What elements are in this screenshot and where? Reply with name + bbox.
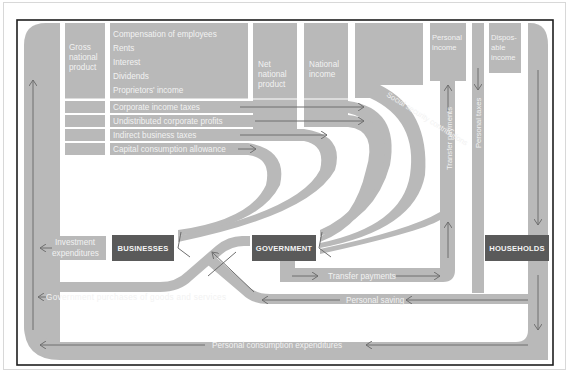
row-undistributed-profits: Undistributed corporate profits xyxy=(113,117,223,126)
personal-taxes-label: Personal taxes xyxy=(474,98,483,148)
personal-income-label: Personal xyxy=(432,33,462,42)
svg-text:income: income xyxy=(491,53,515,62)
row-indirect-business-taxes: Indirect business taxes xyxy=(113,131,196,140)
national-income-label: National xyxy=(309,60,339,69)
svg-text:income: income xyxy=(432,43,456,52)
svg-text:GOVERNMENT: GOVERNMENT xyxy=(256,244,313,253)
svg-text:expenditures: expenditures xyxy=(52,249,99,258)
transfer-payments-vertical-label: Transfer payments xyxy=(445,107,454,170)
svg-text:national: national xyxy=(258,70,287,79)
svg-text:able: able xyxy=(491,43,505,52)
svg-text:Personal consumption expenditu: Personal consumption expenditures xyxy=(212,341,342,350)
row-corporate-income-taxes: Corporate income taxes xyxy=(113,103,200,112)
svg-text:Investment: Investment xyxy=(55,238,96,247)
gnp-label: Gross xyxy=(69,43,91,52)
circular-flow-diagram: Gross national product Compensation of e… xyxy=(0,0,572,373)
svg-text:Personal saving: Personal saving xyxy=(346,296,405,305)
svg-text:product: product xyxy=(258,80,286,89)
households-box: HOUSEHOLDS xyxy=(485,235,549,261)
svg-text:Transfer payments: Transfer payments xyxy=(328,272,396,281)
svg-text:Proprietors' income: Proprietors' income xyxy=(113,86,184,95)
svg-text:product: product xyxy=(69,63,97,72)
nnp-label: Net xyxy=(258,60,271,69)
row-capital-consumption: Capital consumption allowance xyxy=(113,145,226,154)
businesses-box: BUSINESSES xyxy=(112,235,174,261)
svg-text:income: income xyxy=(309,70,336,79)
svg-text:national: national xyxy=(69,53,98,62)
government-box: GOVERNMENT xyxy=(252,235,316,261)
svg-text:Rents: Rents xyxy=(113,44,134,53)
svg-text:BUSINESSES: BUSINESSES xyxy=(118,244,169,253)
svg-text:Dividends: Dividends xyxy=(113,72,149,81)
income-component-label: Compensation of employees xyxy=(113,30,217,39)
svg-text:Government purchases of goods: Government purchases of goods and servic… xyxy=(46,293,226,302)
svg-text:HOUSEHOLDS: HOUSEHOLDS xyxy=(489,244,545,253)
disposable-income-label: Dispos- xyxy=(491,33,517,42)
svg-text:Interest: Interest xyxy=(113,58,141,67)
